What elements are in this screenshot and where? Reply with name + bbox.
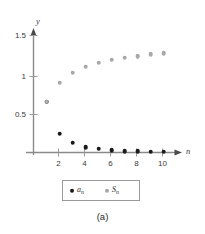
- data-point-a_n-7: [122, 149, 127, 154]
- data-points-layer: [0, 0, 205, 175]
- legend-marker-icon-a-n: [70, 189, 74, 193]
- data-point-S_n-2: [57, 80, 62, 85]
- legend-label-s-n: Sn: [112, 184, 119, 197]
- legend-item-s-n: Sn: [105, 184, 119, 197]
- data-point-a_n-9: [148, 149, 153, 154]
- data-point-a_n-10: [161, 149, 166, 154]
- data-point-S_n-6: [109, 57, 114, 62]
- figure-panel: y n 1.5 1 0.5 2 4 6 8 10 an Sn: [0, 0, 205, 234]
- data-point-S_n-5: [96, 61, 101, 66]
- legend-item-a-n: an: [70, 184, 84, 197]
- data-point-S_n-8: [135, 54, 140, 59]
- data-point-a_n-4: [83, 145, 88, 150]
- data-point-a_n-2: [57, 131, 62, 136]
- data-point-S_n-1: [44, 99, 49, 104]
- legend: an Sn: [62, 180, 140, 201]
- figure-caption: (a): [0, 211, 205, 222]
- data-point-S_n-9: [148, 52, 153, 57]
- data-point-a_n-6: [109, 148, 114, 153]
- legend-marker-icon-s-n: [105, 189, 109, 193]
- data-point-a_n-8: [135, 149, 140, 154]
- data-point-S_n-3: [70, 70, 75, 75]
- legend-label-a-n: an: [77, 184, 84, 197]
- data-point-a_n-5: [96, 146, 101, 151]
- plot-area: y n 1.5 1 0.5 2 4 6 8 10: [0, 0, 205, 175]
- data-point-a_n-3: [70, 140, 75, 145]
- data-point-S_n-4: [83, 64, 88, 69]
- data-point-S_n-10: [161, 51, 166, 56]
- data-point-S_n-7: [122, 55, 127, 60]
